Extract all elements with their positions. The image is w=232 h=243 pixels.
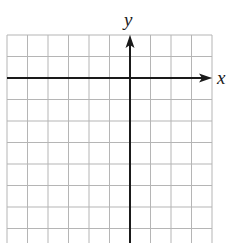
x-axis-label: x [216, 67, 226, 88]
grid-lines [7, 35, 212, 243]
coordinate-plane: x y [0, 0, 232, 243]
y-axis-label: y [122, 9, 133, 30]
coordinate-grid-figure: x y [0, 0, 232, 243]
